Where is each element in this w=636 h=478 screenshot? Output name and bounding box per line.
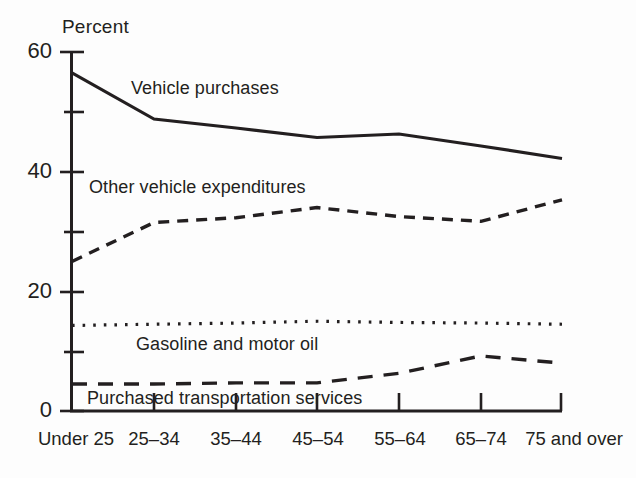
- y-tick-label-40: 40: [8, 158, 52, 184]
- series-annotation-vehicle-purchases: Vehicle purchases: [131, 78, 279, 99]
- series-line-other-vehicle-expenditures: [72, 200, 562, 262]
- x-tick-label-65-74: 65–74: [441, 428, 521, 450]
- y-tick-label-0: 0: [8, 397, 52, 423]
- x-tick-label-55-64: 55–64: [360, 428, 440, 450]
- x-tick-label-75-and-over: 75 and over: [515, 428, 633, 450]
- series-line-purchased-transportation-services: [72, 356, 562, 384]
- y-axis-minor-ticks: [64, 112, 84, 352]
- series-line-gasoline-and-motor-oil: [72, 321, 562, 325]
- y-tick-label-60: 60: [8, 38, 52, 64]
- chart-container: Percent 60 40 20 0 Under 25 25–34 35–44 …: [0, 0, 636, 478]
- x-tick-label-45-54: 45–54: [278, 428, 358, 450]
- series-annotation-gasoline-and-motor-oil: Gasoline and motor oil: [136, 334, 318, 355]
- x-tick-label-25-34: 25–34: [114, 428, 194, 450]
- y-axis-title: Percent: [62, 16, 129, 38]
- y-tick-label-20: 20: [8, 278, 52, 304]
- x-tick-label-35-44: 35–44: [196, 428, 276, 450]
- series-annotation-purchased-transportation-services: Purchased transportation services: [87, 388, 362, 409]
- series-annotation-other-vehicle-expenditures: Other vehicle expenditures: [89, 177, 306, 198]
